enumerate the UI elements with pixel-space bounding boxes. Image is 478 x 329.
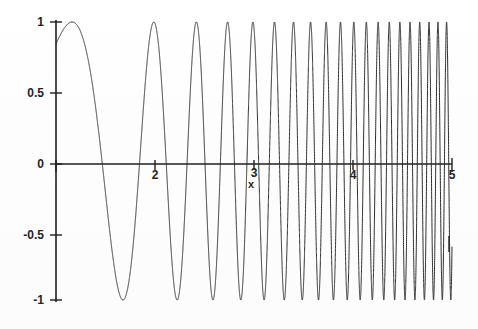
y-tick-label-neg-0-5: -0.5 [0, 228, 44, 242]
y-tick-label-neg-1: -1 [6, 293, 44, 307]
x-tick-label-5: 5 [442, 168, 462, 182]
chirp-plot-svg [0, 0, 478, 329]
x-tick-label-2: 2 [145, 168, 165, 182]
chart-figure: 1 0.5 0 -0.5 -1 2 3 4 5 x [0, 0, 478, 329]
y-tick-label-1: 1 [10, 15, 44, 29]
y-tick-label-0: 0 [10, 157, 44, 171]
x-axis-title: x [248, 178, 254, 190]
y-tick-label-0-5: 0.5 [4, 86, 44, 100]
x-tick-label-4: 4 [343, 168, 363, 182]
